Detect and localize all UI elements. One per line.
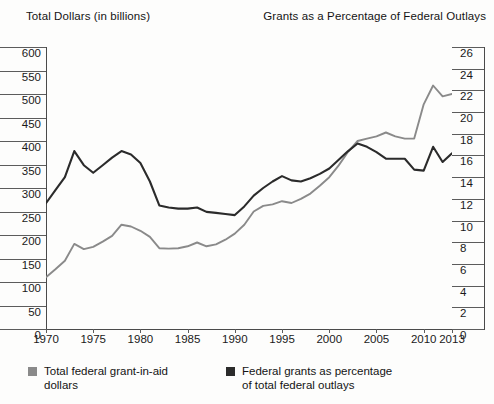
right-tick-label: 6 [457, 264, 466, 276]
left-tick-label: 150 [22, 259, 44, 271]
left-tick-mark [0, 306, 46, 307]
left-tick-label: 300 [22, 189, 44, 201]
x-tick-mark [140, 329, 141, 333]
left-tick-mark [0, 188, 46, 189]
right-tick-label: 14 [457, 178, 473, 190]
right-tick-mark [452, 155, 484, 156]
right-axis-title: Grants as a Percentage of Federal Outlay… [263, 10, 486, 22]
x-tick-label: 2013 [439, 333, 465, 345]
x-tick-mark [46, 329, 47, 333]
federal-grants-chart: Total Dollars (in billions) Grants as a … [0, 0, 494, 404]
left-tick-mark [0, 282, 46, 283]
legend-item-dollars: Total federal grant-in-aid dollars [28, 364, 204, 392]
right-tick-label: 8 [457, 243, 466, 255]
legend-item-percentage: Federal grants as percentage of total fe… [226, 364, 402, 392]
left-tick-mark [0, 47, 46, 48]
right-tick-mark [452, 90, 484, 91]
x-tick-mark [93, 329, 94, 333]
x-tick-label: 1970 [33, 333, 59, 345]
x-tick-mark [452, 329, 453, 333]
right-tick-mark [452, 221, 484, 222]
right-tick-mark [452, 112, 484, 113]
x-tick-label: 2000 [316, 333, 342, 345]
right-tick-mark [452, 199, 484, 200]
left-tick-label: 250 [22, 212, 44, 224]
x-tick-label: 1975 [80, 333, 106, 345]
left-tick-label: 200 [22, 236, 44, 248]
left-tick-label: 500 [22, 95, 44, 107]
x-tick-label: 1990 [222, 333, 248, 345]
x-axis-line [46, 329, 452, 330]
left-tick-mark [0, 329, 46, 330]
left-tick-mark [0, 259, 46, 260]
line-percentage-outlays [46, 144, 452, 216]
right-tick-label: 20 [457, 113, 473, 125]
left-tick-mark [0, 212, 46, 213]
right-tick-mark [452, 177, 484, 178]
legend-swatch-dollars [28, 367, 37, 376]
left-axis-title: Total Dollars (in billions) [26, 10, 150, 22]
right-tick-mark [452, 242, 484, 243]
left-tick-label: 450 [22, 118, 44, 130]
right-tick-label: 4 [457, 286, 466, 298]
x-axis-labels: 1970197519801985199019952000200520102013 [46, 333, 452, 353]
right-tick-mark [452, 69, 484, 70]
series-lines [46, 47, 452, 329]
left-tick-mark [0, 71, 46, 72]
right-tick-label: 10 [457, 221, 473, 233]
x-tick-mark [376, 329, 377, 333]
left-tick-mark [0, 118, 46, 119]
left-tick-label: 50 [28, 306, 44, 318]
right-tick-label: 12 [457, 199, 473, 211]
right-tick-mark [452, 307, 484, 308]
left-tick-mark [0, 141, 46, 142]
x-tick-label: 1980 [128, 333, 154, 345]
right-tick-label: 24 [457, 69, 473, 81]
left-tick-label: 100 [22, 283, 44, 295]
right-tick-mark [452, 286, 484, 287]
right-tick-label: 22 [457, 91, 473, 103]
left-tick-mark [0, 165, 46, 166]
chart-legend: Total federal grant-in-aid dollars Feder… [28, 364, 468, 392]
right-tick-label: 16 [457, 156, 473, 168]
right-tick-label: 2 [457, 308, 466, 320]
x-tick-mark [282, 329, 283, 333]
x-tick-label: 2005 [364, 333, 390, 345]
legend-label-dollars: Total federal grant-in-aid dollars [44, 364, 204, 392]
line-total-dollars [46, 86, 452, 278]
right-tick-mark [452, 329, 484, 330]
legend-swatch-percentage [226, 367, 235, 376]
x-tick-mark [424, 329, 425, 333]
left-tick-label: 400 [22, 142, 44, 154]
x-tick-mark [329, 329, 330, 333]
legend-label-percentage: Federal grants as percentage of total fe… [242, 364, 402, 392]
right-axis-rule [484, 47, 485, 330]
x-tick-label: 1995 [269, 333, 295, 345]
left-tick-mark [0, 94, 46, 95]
right-tick-label: 18 [457, 134, 473, 146]
right-tick-mark [452, 264, 484, 265]
x-tick-label: 1985 [175, 333, 201, 345]
right-tick-label: 26 [457, 48, 473, 60]
x-tick-mark [188, 329, 189, 333]
x-tick-mark [235, 329, 236, 333]
x-tick-label: 2010 [411, 333, 437, 345]
plot-area [46, 47, 452, 329]
right-tick-mark [452, 134, 484, 135]
right-tick-mark [452, 47, 484, 48]
left-tick-mark [0, 235, 46, 236]
left-tick-label: 600 [22, 48, 44, 60]
left-tick-label: 350 [22, 165, 44, 177]
left-tick-label: 550 [22, 71, 44, 83]
